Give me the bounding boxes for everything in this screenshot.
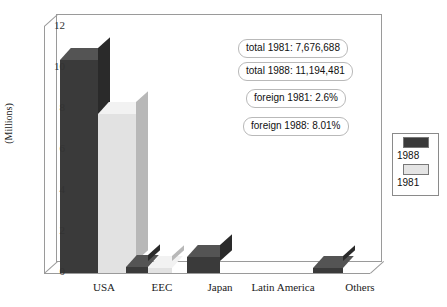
bar-eec-1981 xyxy=(148,268,172,273)
bar-face xyxy=(313,268,343,273)
legend: 1988 1981 xyxy=(392,133,439,196)
x-label-others: Others xyxy=(330,281,390,293)
bar-eec-1988 xyxy=(126,267,148,273)
callout-total-1981: total 1981: 7,676,688 xyxy=(238,39,348,58)
legend-label-1981: 1981 xyxy=(397,176,434,189)
legend-label-1988: 1988 xyxy=(397,149,434,162)
y-tick-10: 10 xyxy=(45,61,65,72)
x-label-eec: EEC xyxy=(132,281,192,293)
callout-total-1988: total 1988: 11,194,481 xyxy=(238,62,353,81)
bar-side xyxy=(220,234,232,261)
x-axis-front-line xyxy=(44,273,370,274)
y-tick-12: 12 xyxy=(45,20,65,31)
bar-face xyxy=(126,267,148,273)
bar-top xyxy=(313,256,354,268)
y-tick-0: 0 xyxy=(45,266,65,277)
bar-face xyxy=(60,60,98,273)
x-label-usa: USA xyxy=(74,281,134,293)
x-label-latin-america: Latin America xyxy=(238,281,328,293)
plot-top-border xyxy=(56,14,382,15)
bar-face xyxy=(98,114,136,273)
callout-foreign-1988: foreign 1988: 8.01% xyxy=(243,117,349,136)
bar-others-1988 xyxy=(313,268,343,273)
chart-figure: 12 10 8 6 4 2 0 (Millions) USA EEC Japan… xyxy=(0,0,447,307)
bar-usa-1988 xyxy=(60,60,98,273)
plot-right-border xyxy=(381,14,382,262)
bar-face xyxy=(187,257,220,273)
callout-foreign-1981: foreign 1981: 2.6% xyxy=(246,89,346,108)
bar-side xyxy=(136,91,148,261)
y-tick-8: 8 xyxy=(45,102,65,113)
bar-face xyxy=(148,268,172,273)
y-axis-title: (Millions) xyxy=(3,103,14,144)
legend-swatch-1988 xyxy=(403,137,429,148)
y-tick-2: 2 xyxy=(45,225,65,236)
legend-swatch-1981 xyxy=(403,164,429,175)
bar-usa-1981 xyxy=(98,114,136,273)
y-tick-6: 6 xyxy=(45,143,65,154)
bar-japan-1988 xyxy=(187,257,220,273)
y-tick-4: 4 xyxy=(45,184,65,195)
